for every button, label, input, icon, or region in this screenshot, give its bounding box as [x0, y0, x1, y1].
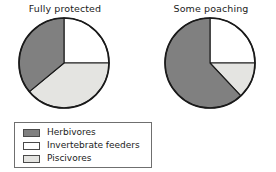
legend-swatch-piscivores: [23, 155, 40, 163]
legend-swatch-herbivores: [23, 129, 40, 137]
pie-svg-fully-protected: [17, 16, 111, 110]
legend-item-invertebrate-feeders: Invertebrate feeders: [23, 139, 151, 152]
legend-label-invertebrate-feeders: Invertebrate feeders: [47, 140, 140, 151]
legend: Herbivores Invertebrate feeders Piscivor…: [14, 122, 152, 168]
legend-swatch-invertebrate-feeders: [23, 142, 40, 150]
legend-item-piscivores: Piscivores: [23, 152, 151, 165]
pie-chart-fully-protected: [17, 16, 111, 114]
pie-chart-some-poaching: [163, 16, 257, 114]
chart-title-some-poaching: Some poaching: [156, 3, 266, 14]
pie-svg-some-poaching: [163, 16, 257, 110]
chart-title-fully-protected: Fully protected: [10, 3, 120, 14]
legend-item-herbivores: Herbivores: [23, 126, 151, 139]
legend-label-herbivores: Herbivores: [47, 127, 96, 138]
pie-chart-figure: Fully protected Some poaching Herbivores: [0, 0, 276, 172]
legend-label-piscivores: Piscivores: [47, 153, 91, 164]
